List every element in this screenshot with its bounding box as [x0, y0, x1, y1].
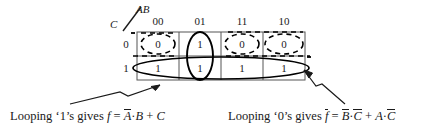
- axis-label-row-variable: C: [110, 19, 117, 30]
- kmap-cell-r0-c2: 0: [221, 39, 263, 50]
- kmap-column-header-3: 10: [263, 16, 305, 27]
- caption-zeros-term-c-bar-2: C: [387, 110, 395, 123]
- axis-label-column-variables: AB: [136, 4, 149, 15]
- caption-zeros-term-c-bar: C: [353, 110, 361, 123]
- caption-looping-ones: Looping ‘1’s gives f = A·B + C: [10, 110, 165, 123]
- left-arrow-shaft: [70, 85, 160, 104]
- caption-zeros-term-b-bar: B: [342, 110, 350, 123]
- caption-zeros-term-a: A: [375, 109, 383, 123]
- caption-ones-function: f: [107, 109, 110, 123]
- kmap-cell-r1-c0: 1: [137, 63, 179, 74]
- right-caption-arrow: [304, 70, 345, 104]
- kmap-cell-r0-c3: 0: [263, 39, 305, 50]
- kmap-row-header-0: 0: [119, 39, 133, 50]
- caption-zeros-equals: =: [331, 109, 338, 123]
- left-caption-arrow: [70, 85, 160, 104]
- kmap-figure: C AB 00 01 11 10 0 1 0 1 0 0 1 1 1 1 Loo…: [0, 0, 441, 133]
- kmap-column-header-0: 00: [137, 16, 179, 27]
- kmap-cell-r0-c1: 1: [179, 39, 221, 50]
- caption-ones-equals: =: [113, 109, 120, 123]
- caption-zeros-plus: +: [365, 109, 372, 123]
- caption-ones-term-b: B: [135, 109, 143, 123]
- caption-ones-term-c: C: [156, 109, 164, 123]
- kmap-cell-r0-c0: 0: [137, 39, 179, 50]
- kmap-cell-r1-c3: 1: [263, 63, 305, 74]
- caption-ones-plus: +: [146, 109, 153, 123]
- caption-zeros-lead: Looping ‘0’s gives: [228, 109, 322, 123]
- kmap-cell-r1-c2: 1: [221, 63, 263, 74]
- kmap-column-header-2: 11: [221, 16, 263, 27]
- caption-zeros-function-bar: f: [325, 110, 328, 123]
- caption-looping-zeros: Looping ‘0’s gives f = B·C + A·C: [228, 110, 395, 123]
- caption-ones-term-a-bar: A: [124, 110, 132, 123]
- kmap-row-header-1: 1: [119, 63, 133, 74]
- kmap-cell-r1-c1: 1: [179, 63, 221, 74]
- left-arrow-head: [151, 85, 160, 91]
- kmap-column-header-1: 01: [179, 16, 221, 27]
- caption-ones-lead: Looping ‘1’s gives: [10, 109, 104, 123]
